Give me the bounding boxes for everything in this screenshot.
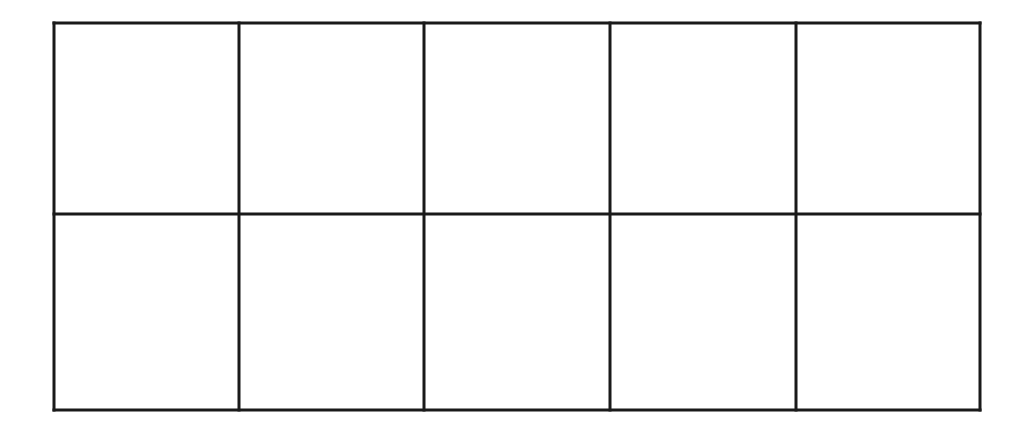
grid-cell-r1-c3	[424, 23, 610, 214]
empty-grid-diagram	[0, 0, 1025, 433]
grid-cell-r1-c4	[610, 23, 796, 214]
grid-cell-r1-c1	[54, 23, 239, 214]
grid-cell-r2-c1	[54, 214, 239, 410]
grid-cell-r2-c3	[424, 214, 610, 410]
grid-cell-r2-c2	[239, 214, 424, 410]
grid-cell-r2-c5	[796, 214, 980, 410]
grid-cell-r1-c5	[796, 23, 980, 214]
grid-cell-r2-c4	[610, 214, 796, 410]
grid-cell-r1-c2	[239, 23, 424, 214]
